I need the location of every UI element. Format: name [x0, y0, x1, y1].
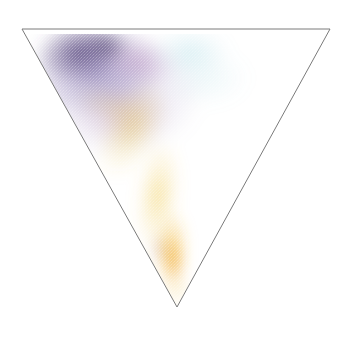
ternary-plot-canvas [0, 0, 351, 343]
ternary-density-plot [0, 0, 351, 343]
top-edge-white-gap [0, 29, 351, 34]
